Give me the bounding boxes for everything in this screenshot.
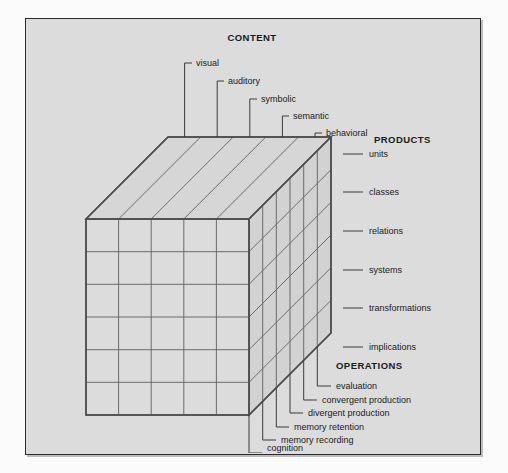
products-label-transformations: transformations (369, 303, 432, 313)
products-ticks (343, 154, 363, 347)
products-label-implications: implications (369, 342, 417, 352)
content-label-symbolic: symbolic (261, 94, 297, 104)
operations-label-convergent-production: convergent production (322, 395, 411, 405)
operations-label-divergent-production: divergent production (308, 408, 390, 418)
figure-frame: CONTENT visual auditory symbolic semanti… (25, 18, 481, 455)
axis-header-operations: OPERATIONS (336, 360, 403, 371)
cube (86, 137, 331, 415)
content-label-semantic: semantic (293, 111, 330, 121)
content-label-behavioral: behavioral (326, 128, 368, 138)
content-label-auditory: auditory (228, 76, 261, 86)
products-label-systems: systems (369, 265, 403, 275)
operations-label-evaluation: evaluation (336, 381, 377, 391)
axis-header-content: CONTENT (227, 32, 276, 43)
axis-header-products: PRODUCTS (374, 134, 431, 145)
products-label-units: units (369, 149, 389, 159)
operations-label-cognition: cognition (267, 443, 303, 453)
operations-label-memory-retention: memory retention (294, 422, 364, 432)
content-label-visual: visual (196, 58, 219, 68)
products-label-classes: classes (369, 187, 400, 197)
products-label-relations: relations (369, 226, 404, 236)
content-leaders (185, 63, 322, 137)
soi-cube-diagram: CONTENT visual auditory symbolic semanti… (26, 19, 479, 453)
